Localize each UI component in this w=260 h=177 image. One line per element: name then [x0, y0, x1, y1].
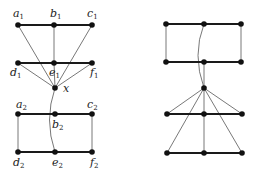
label-a1: a1	[13, 8, 24, 21]
node-r10	[239, 111, 245, 117]
node-r4	[163, 59, 169, 65]
label-e1: e1	[49, 67, 60, 80]
edge-r7-r10	[204, 88, 242, 114]
label-d2: d2	[13, 157, 25, 170]
label-d1: d1	[10, 67, 22, 80]
label-f1: f1	[90, 67, 99, 80]
node-f1	[89, 60, 95, 66]
node-e2	[52, 149, 58, 155]
edge-r7-r11	[167, 88, 204, 153]
node-r11	[164, 150, 170, 156]
edge-r7-r8	[167, 88, 204, 114]
node-r9	[201, 111, 207, 117]
edge-c1-x	[55, 25, 92, 88]
node-c2	[89, 111, 95, 117]
label-x: x	[63, 83, 69, 94]
node-b2	[52, 111, 58, 117]
node-a1	[15, 22, 21, 28]
node-r8	[164, 111, 170, 117]
node-b1	[51, 22, 57, 28]
node-r6	[238, 59, 244, 65]
node-c1	[89, 22, 95, 28]
edge-f1-x	[55, 63, 92, 88]
label-a2: a2	[16, 99, 27, 112]
label-c1: c1	[87, 8, 98, 21]
curved-edge-r2-r7	[198, 24, 204, 88]
diagram-canvas	[0, 0, 260, 177]
node-r5	[201, 59, 207, 65]
label-e2: e2	[52, 157, 63, 170]
label-b1: b1	[50, 8, 62, 21]
node-d2	[15, 149, 21, 155]
node-r12	[201, 150, 207, 156]
node-a2	[15, 111, 21, 117]
node-r1	[163, 21, 169, 27]
node-e1	[51, 60, 57, 66]
node-d1	[15, 60, 21, 66]
node-f2	[89, 149, 95, 155]
label-c2: c2	[87, 99, 98, 112]
left-graph	[15, 22, 95, 155]
right-graph	[163, 21, 245, 156]
label-b2: b2	[52, 119, 64, 132]
node-r13	[239, 150, 245, 156]
node-r3	[238, 21, 244, 27]
node-r2	[201, 21, 207, 27]
node-r7	[201, 85, 207, 91]
label-f2: f2	[90, 157, 99, 170]
node-x	[52, 85, 58, 91]
edge-r7-r13	[204, 88, 242, 153]
